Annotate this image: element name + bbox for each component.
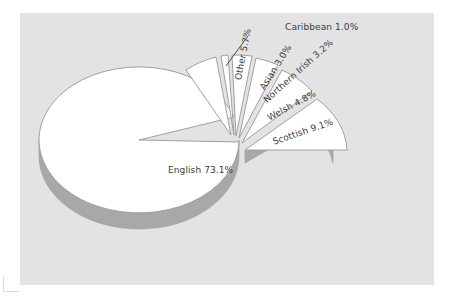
chart-panel: English 73.1% Scottish 9.1% Welsh 4.8% N… xyxy=(20,13,434,285)
pie-chart-graphic xyxy=(20,13,434,285)
crop-corner-mark-icon xyxy=(3,276,19,292)
pie-chart-canvas xyxy=(20,13,434,285)
document-surface: English 73.1% Scottish 9.1% Welsh 4.8% N… xyxy=(0,0,450,306)
